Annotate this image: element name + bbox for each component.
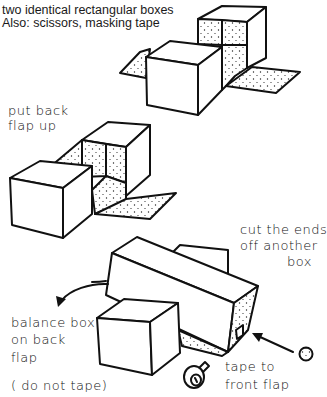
label-balance-2: on back	[11, 331, 66, 349]
curved-arrow-icon	[56, 284, 108, 307]
front-box	[146, 41, 222, 115]
label-balance-1: balance box	[11, 314, 95, 332]
label-tape-front-2: front flap	[225, 376, 289, 394]
label-tape-front-1: tape to	[225, 358, 275, 376]
ball-icon	[300, 348, 313, 361]
figure-2-boxes	[10, 122, 176, 238]
figure-1-boxes	[120, 6, 300, 115]
label-cut-ends-3: box	[287, 253, 312, 271]
figure-3-boxes	[92, 237, 258, 375]
label-put-back-2: flap up	[8, 117, 57, 135]
label-do-not-tape: ( do not tape)	[11, 377, 107, 395]
straight-arrow-icon	[252, 333, 293, 352]
label-balance-3: flap	[11, 349, 37, 367]
tape-roll-icon	[184, 362, 209, 388]
